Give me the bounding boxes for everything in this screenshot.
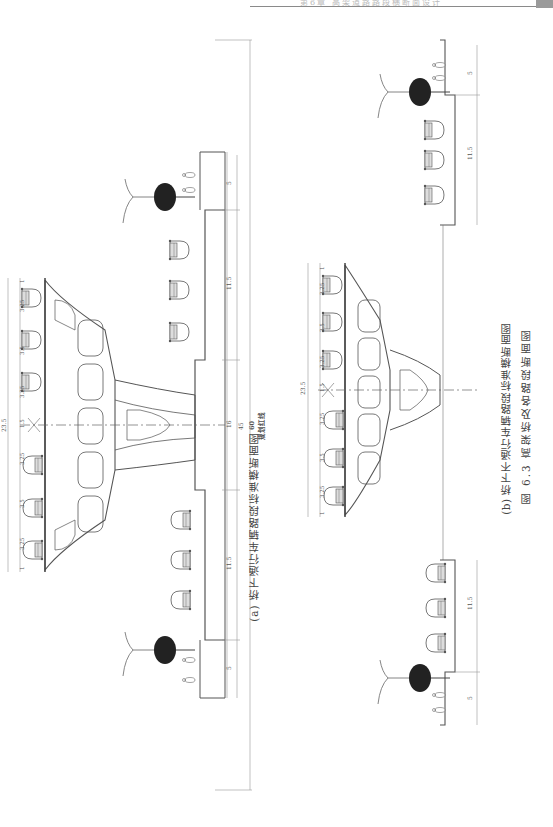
svg-text:11.5: 11.5 xyxy=(466,146,473,160)
svg-text:3.25: 3.25 xyxy=(19,537,25,550)
svg-text:5: 5 xyxy=(466,71,473,75)
svg-text:3.25: 3.25 xyxy=(319,355,325,368)
svg-text:3.5: 3.5 xyxy=(319,323,325,332)
figure-caption: 图 6.3 高架桥及各路段断面图 xyxy=(518,328,533,504)
svg-text:11.5: 11.5 xyxy=(225,276,232,290)
svg-text:5: 5 xyxy=(225,181,232,185)
svg-text:1.5: 1.5 xyxy=(319,383,325,392)
svg-text:60: 60 xyxy=(248,420,256,430)
svg-text:45: 45 xyxy=(237,422,244,430)
svg-text:5: 5 xyxy=(225,666,232,670)
drawing-b: 5 11.5 11.5 5 xyxy=(299,40,480,725)
svg-text:11.5: 11.5 xyxy=(466,596,473,610)
svg-text:3.25: 3.25 xyxy=(319,412,325,425)
svg-text:1: 1 xyxy=(319,512,325,516)
svg-text:1: 1 xyxy=(319,267,325,271)
svg-text:11.5: 11.5 xyxy=(225,556,232,570)
cross-section-drawings: 5 11.5 16 11.5 5 45 60 规划红线 xyxy=(0,0,553,827)
svg-text:3.5: 3.5 xyxy=(19,346,25,355)
svg-text:3.5: 3.5 xyxy=(319,453,325,462)
svg-text:3.25: 3.25 xyxy=(319,282,325,295)
svg-text:3.25: 3.25 xyxy=(319,485,325,498)
caption-b: (b) 桥下不通行车辆路段标准横断面图 xyxy=(498,322,513,515)
caption-a: (a) 桥下通行车辆路段标准横断面图 xyxy=(246,432,261,622)
svg-text:5: 5 xyxy=(466,696,473,700)
svg-text:1: 1 xyxy=(19,280,25,284)
svg-text:1: 1 xyxy=(19,567,25,571)
svg-text:3.25: 3.25 xyxy=(19,452,25,465)
svg-text:16: 16 xyxy=(225,420,232,428)
svg-text:3.5: 3.5 xyxy=(19,499,25,508)
svg-text:23.5: 23.5 xyxy=(0,418,7,432)
svg-text:3.25: 3.25 xyxy=(19,299,25,312)
svg-text:1.5: 1.5 xyxy=(19,419,25,428)
svg-text:23.5: 23.5 xyxy=(299,381,306,395)
svg-text:3.25: 3.25 xyxy=(19,385,25,398)
drawing-a: 5 11.5 16 11.5 5 45 60 规划红线 xyxy=(0,40,266,790)
